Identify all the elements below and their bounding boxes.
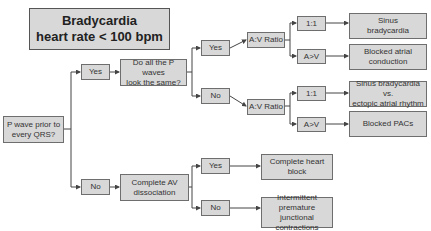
node-no-p-wave: No [81,179,110,195]
title-line-2: heart rate < 100 bpm [36,29,163,45]
outcome-sinus-vs-ectopic: Sinus bradycardia vs. ectopic atrial rhy… [349,81,427,107]
node-ratio-a-gt-v-a: A>V [297,49,326,64]
node-ratio-1-1-a: 1:1 [297,16,326,31]
node-ratio-a-gt-v-b: A>V [297,117,326,132]
outcome-blocked-atrial-conduction: Blocked atrial conduction [349,44,427,70]
node-complete-av-dissociation: Complete AV dissociation [120,174,189,201]
node-p-wave-prior: P wave prior to every QRS? [3,116,64,143]
outcome-complete-heart-block: Complete heart block [261,154,333,180]
outcome-intermittent-pjc: Intermittent premature junctional contra… [261,197,333,228]
node-ratio-1-1-b: 1:1 [297,86,326,101]
node-no-same: No [201,88,230,104]
node-yes-complete-av: Yes [201,158,230,174]
node-av-ratio-b: A:V Ratio [247,99,285,115]
title-line-1: Bradycardia [62,13,137,29]
title-box: Bradycardia heart rate < 100 bpm [29,8,170,50]
node-p-waves-same: Do all the P waves look the same? [120,59,187,86]
node-yes-same: Yes [201,40,230,56]
bradycardia-flowchart: Bradycardia heart rate < 100 bpm P wave … [0,0,431,231]
node-yes-p-wave: Yes [81,64,110,80]
outcome-blocked-pacs: Blocked PACs [349,111,427,137]
node-av-ratio-a: A:V Ratio [247,32,285,48]
outcome-sinus-bradycardia: Sinus bradycardia [349,13,427,39]
node-no-complete-av: No [201,200,230,216]
